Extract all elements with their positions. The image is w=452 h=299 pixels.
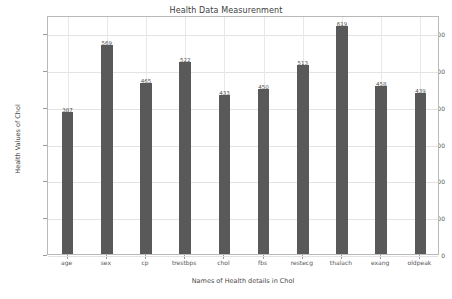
x-tick-label-sex: sex xyxy=(101,259,111,266)
x-axis-label: Names of Health details in Chol xyxy=(47,277,439,285)
chart-title: Health Data Measurenment xyxy=(0,6,452,15)
bar-value-label-thalach: 619 xyxy=(337,21,348,27)
bar-exang xyxy=(375,86,387,254)
bar-trestbps xyxy=(179,62,191,254)
bar-fbs xyxy=(258,89,270,254)
bar-thalach xyxy=(336,26,348,254)
y-tick-mark xyxy=(43,255,47,256)
plot-area: 387569465522433450513619458439 xyxy=(47,16,439,255)
x-tick-label-chol: chol xyxy=(217,259,229,266)
x-tick-label-exang: exang xyxy=(371,259,389,266)
bar-value-label-age: 387 xyxy=(62,107,73,113)
bar-value-label-cp: 465 xyxy=(141,78,152,84)
bar-sex xyxy=(101,45,113,254)
bar-value-label-fbs: 450 xyxy=(258,84,269,90)
chart-figure: Health Data Measurenment Health Values o… xyxy=(0,0,452,299)
x-tick-label-cp: cp xyxy=(141,259,148,266)
bar-cp xyxy=(140,83,152,254)
bar-age xyxy=(62,112,74,254)
gridline-horizontal xyxy=(48,35,438,36)
bar-chol xyxy=(219,95,231,254)
x-tick-label-restecg: restecg xyxy=(291,259,313,266)
bar-oldpeak xyxy=(415,93,427,254)
bar-restecg xyxy=(297,65,309,254)
x-tick-label-trestbps: trestbps xyxy=(172,259,197,266)
bar-value-label-chol: 433 xyxy=(219,90,230,96)
bar-value-label-exang: 458 xyxy=(376,81,387,87)
y-axis-label: Health Values of Chol xyxy=(14,69,22,209)
x-tick-label-age: age xyxy=(61,259,72,266)
bar-value-label-oldpeak: 439 xyxy=(415,88,426,94)
x-tick-label-oldpeak: oldpeak xyxy=(407,259,431,266)
x-tick-label-thalach: thalach xyxy=(330,259,352,266)
x-tick-label-fbs: fbs xyxy=(258,259,267,266)
y-tick-label: 0 xyxy=(441,252,445,259)
bar-value-label-sex: 569 xyxy=(102,40,113,46)
bar-value-label-restecg: 513 xyxy=(298,60,309,66)
bar-value-label-trestbps: 522 xyxy=(180,57,191,63)
